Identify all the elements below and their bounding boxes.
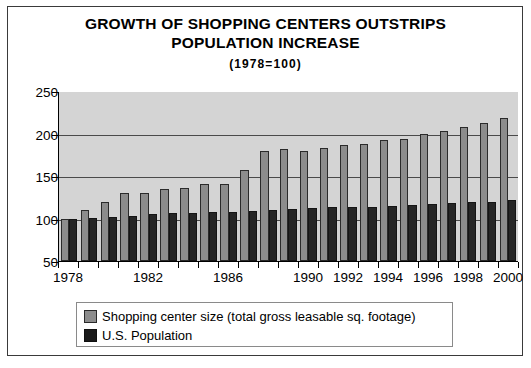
bar-group xyxy=(498,92,518,261)
x-tick-mark xyxy=(498,262,499,268)
y-tick-label: 200 xyxy=(6,127,58,142)
bar xyxy=(229,212,237,261)
y-tick-label: 100 xyxy=(6,212,58,227)
bar xyxy=(288,209,296,261)
y-tick-label: 50 xyxy=(6,255,58,270)
bar xyxy=(460,127,468,261)
bar xyxy=(140,193,148,261)
x-tick-mark xyxy=(58,262,59,268)
x-tick-mark xyxy=(338,262,339,268)
bar xyxy=(280,149,288,261)
black-swatch-icon xyxy=(84,329,97,342)
bar xyxy=(448,203,456,261)
bar-group xyxy=(438,92,458,261)
bar xyxy=(69,219,77,262)
gray-swatch-icon xyxy=(84,310,97,323)
x-tick-mark xyxy=(258,262,259,268)
plot-area xyxy=(58,92,518,262)
x-axis: 197819821986199019921994199619982000 xyxy=(58,262,518,296)
bar xyxy=(180,188,188,261)
bar xyxy=(428,204,436,261)
legend-item: Shopping center size (total gross leasab… xyxy=(84,307,446,326)
chart-figure: GROWTH OF SHOPPING CENTERS OUTSTRIPS POP… xyxy=(0,0,531,368)
x-tick-label: 1978 xyxy=(53,270,83,285)
x-tick-mark xyxy=(138,262,139,268)
bar xyxy=(269,210,277,261)
bar xyxy=(120,193,128,261)
bar xyxy=(480,123,488,261)
bar-group xyxy=(278,92,298,261)
bar-group xyxy=(59,92,79,261)
x-tick-label: 1982 xyxy=(133,270,163,285)
bar-group xyxy=(239,92,259,261)
bar xyxy=(209,212,217,261)
bar-group xyxy=(358,92,378,261)
bar xyxy=(440,131,448,261)
bar xyxy=(109,217,117,261)
bar xyxy=(400,139,408,261)
bar-group xyxy=(179,92,199,261)
bar xyxy=(189,213,197,261)
bar xyxy=(129,216,137,261)
bar-series-container xyxy=(59,92,518,261)
x-tick-mark xyxy=(78,262,79,268)
bar xyxy=(320,148,328,261)
bar-group xyxy=(398,92,418,261)
bar xyxy=(340,145,348,261)
x-tick-mark xyxy=(398,262,399,268)
bar-group xyxy=(418,92,438,261)
bar xyxy=(169,213,177,261)
bar-group xyxy=(318,92,338,261)
x-tick-mark xyxy=(358,262,359,268)
x-tick-mark xyxy=(178,262,179,268)
bar xyxy=(160,189,168,261)
bar xyxy=(408,205,416,261)
bar-group xyxy=(119,92,139,261)
bar xyxy=(380,140,388,261)
y-axis: 50100150200250 xyxy=(0,0,58,368)
y-tick-label: 150 xyxy=(6,170,58,185)
bar xyxy=(308,208,316,261)
x-tick-mark xyxy=(118,262,119,268)
bar-group xyxy=(139,92,159,261)
bar-group xyxy=(378,92,398,261)
x-tick-mark xyxy=(98,262,99,268)
bar-group xyxy=(478,92,498,261)
y-tick-label: 250 xyxy=(6,85,58,100)
bar xyxy=(81,210,89,261)
x-tick-label: 1992 xyxy=(333,270,363,285)
x-tick-mark xyxy=(458,262,459,268)
bar xyxy=(420,134,428,261)
bar xyxy=(101,202,109,262)
x-tick-label: 1994 xyxy=(373,270,403,285)
x-tick-mark xyxy=(158,262,159,268)
x-tick-mark xyxy=(298,262,299,268)
x-tick-mark xyxy=(478,262,479,268)
x-tick-mark xyxy=(438,262,439,268)
x-tick-mark xyxy=(518,262,519,268)
bar xyxy=(260,151,268,262)
bar xyxy=(468,202,476,261)
bar xyxy=(500,118,508,261)
x-tick-mark xyxy=(378,262,379,268)
x-tick-label: 2000 xyxy=(493,270,523,285)
x-tick-label: 1990 xyxy=(293,270,323,285)
bar xyxy=(89,218,97,261)
bar xyxy=(368,207,376,261)
x-tick-mark xyxy=(238,262,239,268)
x-tick-mark xyxy=(418,262,419,268)
x-tick-label: 1986 xyxy=(213,270,243,285)
bar xyxy=(200,184,208,261)
bar xyxy=(149,214,157,261)
x-tick-mark xyxy=(318,262,319,268)
bar xyxy=(249,211,257,261)
bar-group xyxy=(99,92,119,261)
bar xyxy=(388,206,396,261)
legend-item: U.S. Population xyxy=(84,326,446,345)
bar-group xyxy=(259,92,279,261)
bar xyxy=(300,151,308,262)
bar xyxy=(240,170,248,261)
bar-group xyxy=(298,92,318,261)
x-tick-mark xyxy=(198,262,199,268)
bar xyxy=(508,200,516,261)
